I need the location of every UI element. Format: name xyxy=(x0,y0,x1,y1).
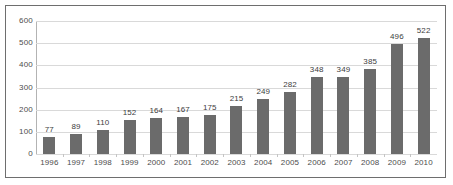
bar-chart: 0100200300400500600 77891101521641671752… xyxy=(0,0,453,185)
x-tick-mark xyxy=(330,154,331,157)
x-tick-mark xyxy=(223,154,224,157)
x-axis: 1996199719981999200020012002200320042005… xyxy=(36,0,437,185)
x-tick-mark xyxy=(170,154,171,157)
x-tick-mark xyxy=(143,154,144,157)
y-tick-label: 600 xyxy=(3,17,33,25)
x-tick-label: 2001 xyxy=(170,158,197,167)
x-tick-mark xyxy=(116,154,117,157)
x-tick-label: 2009 xyxy=(384,158,411,167)
x-tick-label: 1996 xyxy=(36,158,63,167)
x-tick-mark xyxy=(196,154,197,157)
x-tick-label: 2007 xyxy=(330,158,357,167)
x-tick-label: 2005 xyxy=(277,158,304,167)
x-tick-label: 2008 xyxy=(357,158,384,167)
x-tick-label: 1998 xyxy=(89,158,116,167)
y-axis: 0100200300400500600 xyxy=(0,0,33,185)
x-tick-label: 1999 xyxy=(116,158,143,167)
x-tick-label: 2003 xyxy=(223,158,250,167)
x-tick-mark xyxy=(89,154,90,157)
x-tick-mark xyxy=(277,154,278,157)
x-tick-label: 2006 xyxy=(303,158,330,167)
y-tick-label: 300 xyxy=(3,84,33,92)
x-tick-label: 2000 xyxy=(143,158,170,167)
x-tick-label: 2002 xyxy=(196,158,223,167)
x-tick-label: 2004 xyxy=(250,158,277,167)
y-tick-label: 500 xyxy=(3,39,33,47)
y-tick-label: 400 xyxy=(3,61,33,69)
x-tick-label: 2010 xyxy=(410,158,437,167)
x-tick-mark xyxy=(384,154,385,157)
x-tick-mark xyxy=(303,154,304,157)
x-tick-mark xyxy=(410,154,411,157)
y-tick-label: 200 xyxy=(3,106,33,114)
y-tick-label: 100 xyxy=(3,128,33,136)
x-tick-label: 1997 xyxy=(63,158,90,167)
x-tick-mark xyxy=(357,154,358,157)
y-tick-label: 0 xyxy=(3,150,33,158)
x-tick-mark xyxy=(250,154,251,157)
x-tick-mark xyxy=(63,154,64,157)
